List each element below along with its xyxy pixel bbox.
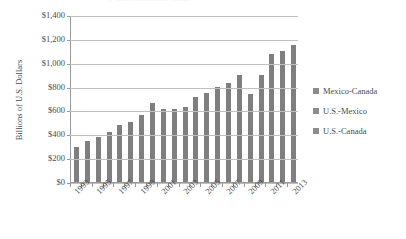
- x-tick-mark: [179, 183, 180, 187]
- bar: [193, 97, 198, 182]
- legend-label: Mexico-Canada: [323, 86, 377, 96]
- bar-chart: North American Trade Billions of U.S. Do…: [0, 0, 406, 239]
- x-tick-mark: [244, 183, 245, 187]
- bar: [204, 93, 209, 182]
- bar: [269, 54, 274, 182]
- x-tick-mark: [113, 183, 114, 187]
- gridline: [70, 159, 298, 160]
- y-tick-mark: [67, 111, 70, 112]
- plot-area: [70, 16, 298, 183]
- legend-item[interactable]: Mexico-Canada: [313, 86, 377, 96]
- y-tick-label: $1,000: [3, 58, 65, 68]
- x-tick-mark: [92, 183, 93, 187]
- x-tick-mark: [265, 183, 266, 187]
- bar: [226, 83, 231, 182]
- y-tick-mark: [67, 40, 70, 41]
- bar: [85, 141, 90, 182]
- bar: [161, 109, 166, 182]
- bar: [150, 103, 155, 182]
- bar: [237, 75, 242, 182]
- gridline: [70, 64, 298, 65]
- bar: [291, 45, 296, 182]
- y-tick-label: $600: [3, 105, 65, 115]
- legend-item[interactable]: U.S.-Mexico: [313, 106, 377, 116]
- chart-legend: Mexico-CanadaU.S.-MexicoU.S.-Canada: [313, 86, 377, 146]
- y-tick-label: $200: [3, 153, 65, 163]
- x-tick-mark: [287, 183, 288, 187]
- legend-item[interactable]: U.S.-Canada: [313, 126, 377, 136]
- bar: [172, 109, 177, 182]
- bar: [183, 107, 188, 182]
- bar: [139, 115, 144, 182]
- bar: [280, 51, 285, 182]
- y-tick-label: $800: [3, 82, 65, 92]
- bar: [74, 147, 79, 182]
- legend-label: U.S.-Canada: [323, 126, 366, 136]
- y-tick-label: $1,200: [3, 34, 65, 44]
- x-tick-mark: [70, 183, 71, 187]
- legend-swatch-icon: [313, 88, 319, 94]
- y-tick-mark: [67, 64, 70, 65]
- gridline: [70, 88, 298, 89]
- bar: [117, 125, 122, 182]
- gridline: [70, 16, 298, 17]
- bar: [259, 75, 264, 182]
- bar: [128, 122, 133, 182]
- bar: [107, 132, 112, 182]
- y-tick-mark: [67, 16, 70, 17]
- y-tick-label: $1,400: [3, 10, 65, 20]
- bar-group: [71, 16, 298, 182]
- y-tick-label: $400: [3, 129, 65, 139]
- y-tick-mark: [67, 159, 70, 160]
- y-tick-label: $0: [3, 177, 65, 187]
- legend-swatch-icon: [313, 108, 319, 114]
- legend-label: U.S.-Mexico: [323, 106, 367, 116]
- gridline: [70, 40, 298, 41]
- chart-title: North American Trade: [0, 0, 300, 3]
- y-tick-mark: [67, 88, 70, 89]
- legend-swatch-icon: [313, 128, 319, 134]
- y-tick-mark: [67, 135, 70, 136]
- gridline: [70, 135, 298, 136]
- bar: [215, 87, 220, 182]
- bar: [248, 94, 253, 182]
- gridline: [70, 111, 298, 112]
